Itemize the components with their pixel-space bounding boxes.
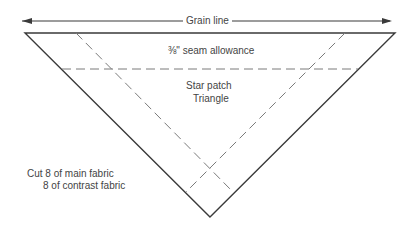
cut-instruction-line1: Cut 8 of main fabric xyxy=(27,168,114,180)
piece-name-line1: Star patch xyxy=(186,80,232,92)
seam-allowance-label: ⅜" seam allowance xyxy=(168,45,254,57)
triangle-pattern-diagram xyxy=(0,0,410,228)
cut-instruction-line2: 8 of contrast fabric xyxy=(43,180,125,192)
grain-line-label: Grain line xyxy=(183,15,232,26)
piece-name-line2: Triangle xyxy=(193,93,229,105)
